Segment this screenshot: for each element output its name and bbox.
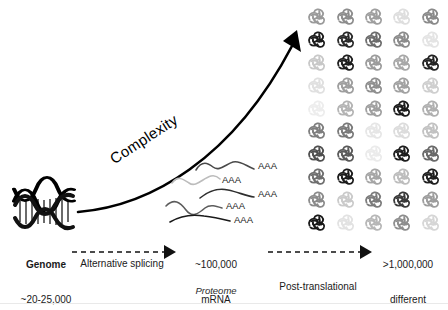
folded-protein-ribbon-icon — [418, 166, 443, 187]
folded-protein-ribbon-icon — [333, 189, 358, 210]
folded-protein-ribbon-icon — [361, 189, 386, 210]
protein-glyph — [303, 6, 331, 29]
folded-protein-ribbon-icon — [390, 144, 415, 165]
protein-glyph — [360, 97, 388, 120]
protein-glyph — [360, 143, 388, 166]
folded-protein-ribbon-icon — [418, 212, 443, 233]
folded-protein-ribbon-icon — [333, 166, 358, 187]
folded-protein-ribbon-icon — [305, 144, 330, 165]
protein-glyph — [303, 188, 331, 211]
bottom-rule — [0, 303, 448, 304]
folded-protein-ribbon-icon — [361, 212, 386, 233]
protein-glyph — [417, 120, 445, 143]
protein-glyph — [360, 211, 388, 234]
protein-glyph — [331, 188, 359, 211]
protein-glyph — [360, 29, 388, 52]
protein-glyph — [388, 74, 416, 97]
folded-protein-ribbon-icon — [390, 189, 415, 210]
folded-protein-ribbon-icon — [305, 121, 330, 142]
protein-glyph — [417, 166, 445, 189]
folded-protein-ribbon-icon — [305, 98, 330, 119]
complexity-diagram: AAAAAAAAAAAAAAA Complexity Genome ~20-25… — [0, 0, 448, 310]
folded-protein-ribbon-icon — [305, 189, 330, 210]
protein-glyph — [303, 120, 331, 143]
mrna-count: ~100,000 — [174, 259, 258, 271]
alternative-splicing-label: Alternative splicing — [62, 258, 182, 270]
protein-glyph — [388, 97, 416, 120]
protein-glyph — [331, 166, 359, 189]
poly-a-tail-label: AAA — [226, 200, 245, 211]
folded-protein-ribbon-icon — [361, 144, 386, 165]
protein-glyph — [388, 52, 416, 75]
folded-protein-ribbon-icon — [333, 7, 358, 28]
protein-glyph — [360, 52, 388, 75]
protein-glyph — [360, 74, 388, 97]
protein-glyph — [417, 188, 445, 211]
protein-glyph — [417, 211, 445, 234]
ptm-dashed-arrow — [268, 245, 372, 259]
folded-protein-ribbon-icon — [305, 52, 330, 73]
folded-protein-ribbon-icon — [418, 189, 443, 210]
folded-protein-ribbon-icon — [361, 98, 386, 119]
protein-glyph — [331, 74, 359, 97]
protein-glyph — [417, 74, 445, 97]
poly-a-tail-label: AAA — [222, 174, 241, 185]
folded-protein-ribbon-icon — [333, 121, 358, 142]
genome-caption: Genome ~20-25,000 genes — [0, 236, 92, 310]
folded-protein-ribbon-icon — [333, 144, 358, 165]
folded-protein-ribbon-icon — [305, 75, 330, 96]
folded-protein-ribbon-icon — [361, 7, 386, 28]
protein-glyph — [331, 120, 359, 143]
folded-protein-ribbon-icon — [305, 7, 330, 28]
protein-glyph — [331, 143, 359, 166]
protein-glyph — [388, 211, 416, 234]
protein-glyph — [417, 52, 445, 75]
folded-protein-ribbon-icon — [305, 30, 330, 51]
protein-glyph — [303, 97, 331, 120]
protein-glyph — [360, 6, 388, 29]
folded-protein-ribbon-icon — [305, 212, 330, 233]
mrna-transcripts-icon — [166, 162, 254, 222]
folded-protein-ribbon-icon — [390, 98, 415, 119]
folded-protein-ribbon-icon — [333, 30, 358, 51]
protein-glyph — [360, 120, 388, 143]
protein-glyph — [331, 97, 359, 120]
folded-protein-ribbon-icon — [361, 30, 386, 51]
folded-protein-ribbon-icon — [333, 52, 358, 73]
protein-glyph — [388, 29, 416, 52]
complexity-arrow — [78, 30, 301, 212]
protein-glyph — [303, 166, 331, 189]
folded-protein-ribbon-icon — [418, 144, 443, 165]
folded-protein-ribbon-icon — [390, 30, 415, 51]
protein-glyph — [388, 6, 416, 29]
protein-glyph — [388, 120, 416, 143]
folded-protein-ribbon-icon — [390, 7, 415, 28]
proteome-caption: Proteome — [174, 285, 258, 297]
protein-glyph — [303, 143, 331, 166]
protein-glyph — [417, 143, 445, 166]
folded-protein-ribbon-icon — [418, 121, 443, 142]
protein-glyph — [360, 166, 388, 189]
protein-glyph — [417, 97, 445, 120]
folded-protein-ribbon-icon — [390, 52, 415, 73]
protein-glyph — [331, 211, 359, 234]
protein-glyph — [303, 52, 331, 75]
folded-protein-ribbon-icon — [361, 166, 386, 187]
folded-protein-ribbon-icon — [390, 75, 415, 96]
protein-glyph — [331, 52, 359, 75]
protein-glyph — [303, 211, 331, 234]
folded-protein-ribbon-icon — [305, 166, 330, 187]
folded-protein-ribbon-icon — [333, 75, 358, 96]
protein-glyph — [388, 188, 416, 211]
folded-protein-ribbon-icon — [361, 75, 386, 96]
poly-a-tail-label: AAA — [234, 214, 253, 225]
complexity-label: Complexity — [107, 111, 181, 167]
protein-glyph — [303, 74, 331, 97]
folded-protein-ribbon-icon — [418, 30, 443, 51]
protein-glyph — [417, 6, 445, 29]
protein-glyph — [331, 29, 359, 52]
folded-protein-ribbon-icon — [418, 75, 443, 96]
folded-protein-ribbon-icon — [390, 212, 415, 233]
protein-glyph — [331, 6, 359, 29]
folded-protein-ribbon-icon — [361, 52, 386, 73]
